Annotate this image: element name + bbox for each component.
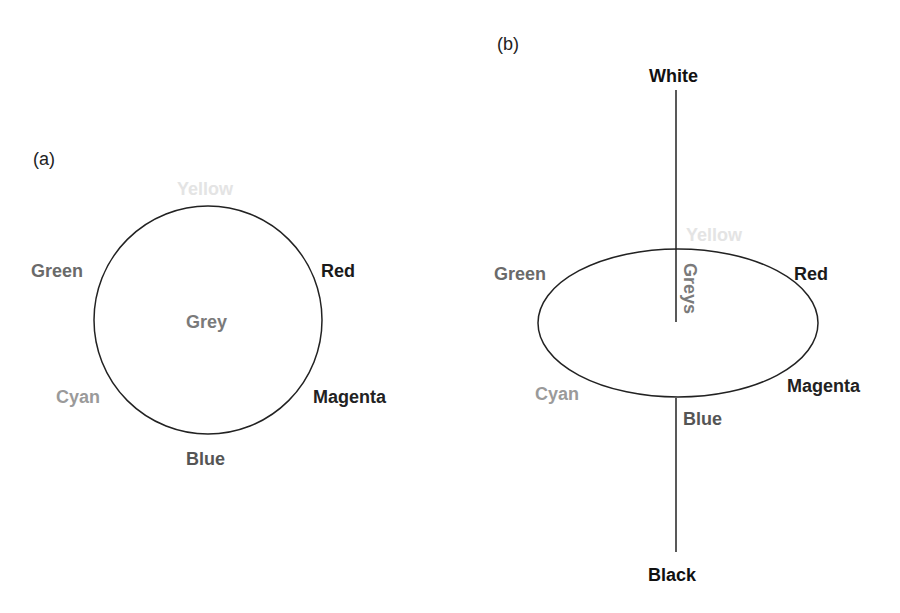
label-yellow-a: Yellow bbox=[177, 180, 233, 198]
panel-a-label: (a) bbox=[33, 150, 55, 168]
label-white: White bbox=[649, 67, 698, 85]
label-red-a: Red bbox=[321, 262, 355, 280]
label-magenta-a: Magenta bbox=[313, 388, 386, 406]
label-magenta-b: Magenta bbox=[787, 377, 860, 395]
label-black: Black bbox=[648, 566, 696, 584]
label-grey-center: Grey bbox=[186, 313, 227, 331]
label-blue-b: Blue bbox=[683, 410, 722, 428]
hue-ellipse bbox=[538, 249, 818, 397]
label-blue-a: Blue bbox=[186, 450, 225, 468]
label-greys-axis: Greys bbox=[681, 263, 699, 314]
label-green-b: Green bbox=[494, 265, 546, 283]
label-cyan-a: Cyan bbox=[56, 388, 100, 406]
diagram-shapes bbox=[0, 0, 900, 613]
label-yellow-b: Yellow bbox=[686, 226, 742, 244]
label-red-b: Red bbox=[794, 265, 828, 283]
panel-b-label: (b) bbox=[497, 35, 519, 53]
label-cyan-b: Cyan bbox=[535, 385, 579, 403]
label-green-a: Green bbox=[31, 262, 83, 280]
